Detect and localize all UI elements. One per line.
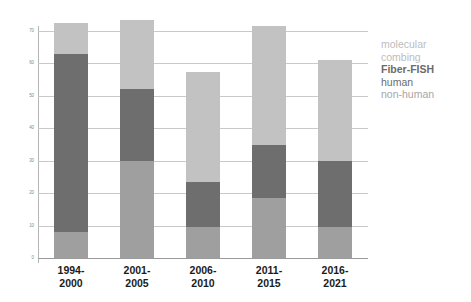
x-label-line: 2021 [304, 277, 366, 290]
x-label-line: 1994- [40, 264, 102, 277]
x-label-line: 2016- [304, 264, 366, 277]
x-label-line: 2011- [238, 264, 300, 277]
bar-segment-non-human [252, 198, 286, 258]
y-tick-label-60: 60 [20, 61, 34, 66]
x-label-2016-2021: 2016-2021 [304, 264, 366, 289]
bar-2011-2015 [252, 26, 286, 258]
bar-2001-2005 [120, 20, 154, 258]
x-label-line: 2010 [172, 277, 234, 290]
y-tick-label-30: 30 [20, 159, 34, 164]
bar-segment-human [54, 54, 88, 232]
legend-item-human: human [381, 76, 469, 89]
stacked-bar-chart: 010203040506070 1994-20002001-20052006-2… [0, 0, 471, 302]
chart-legend: molecular combing Fiber-FISH human non-h… [381, 38, 469, 101]
bar-segment-molecular-combing [186, 72, 220, 182]
bar-2006-2010 [186, 72, 220, 258]
bar-2016-2021 [318, 60, 352, 258]
y-tick-label-0: 0 [20, 256, 34, 261]
gridline-0 [38, 258, 368, 259]
bar-segment-molecular-combing [120, 20, 154, 90]
x-label-line: 2005 [106, 277, 168, 290]
x-label-2006-2010: 2006-2010 [172, 264, 234, 289]
bar-segment-molecular-combing [252, 26, 286, 144]
x-label-2011-2015: 2011-2015 [238, 264, 300, 289]
x-label-2001-2005: 2001-2005 [106, 264, 168, 289]
x-label-1994-2000: 1994-2000 [40, 264, 102, 289]
y-tick-label-10: 10 [20, 224, 34, 229]
bar-segment-molecular-combing [54, 23, 88, 54]
bar-segment-human [120, 89, 154, 160]
y-tick-label-50: 50 [20, 94, 34, 99]
bar-segment-non-human [186, 227, 220, 258]
legend-item-fiber-fish: Fiber-FISH [381, 63, 469, 76]
bar-segment-human [318, 161, 352, 227]
legend-item-molecular: molecular [381, 38, 469, 51]
x-label-line: 2001- [106, 264, 168, 277]
bar-segment-non-human [54, 232, 88, 258]
plot-area [38, 31, 368, 258]
y-tick-label-20: 20 [20, 191, 34, 196]
bar-segment-molecular-combing [318, 60, 352, 161]
bar-segment-human [186, 182, 220, 227]
y-tick-label-40: 40 [20, 126, 34, 131]
legend-item-non-human: non-human [381, 88, 469, 101]
bar-1994-2000 [54, 23, 88, 258]
x-label-line: 2000 [40, 277, 102, 290]
bar-segment-non-human [318, 227, 352, 258]
y-tick-label-70: 70 [20, 29, 34, 34]
x-label-line: 2006- [172, 264, 234, 277]
bar-segment-non-human [120, 161, 154, 258]
bar-segment-human [252, 145, 286, 199]
legend-item-combing: combing [381, 51, 469, 64]
x-label-line: 2015 [238, 277, 300, 290]
